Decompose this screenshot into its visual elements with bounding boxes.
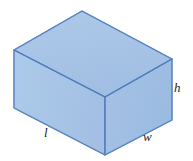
rectangular-box-illustration <box>0 0 193 161</box>
dimension-label-height: h <box>174 81 181 94</box>
dimension-label-length: l <box>44 126 48 139</box>
box-diagram-figure: l w h <box>0 0 193 161</box>
dimension-label-width: w <box>143 130 152 143</box>
